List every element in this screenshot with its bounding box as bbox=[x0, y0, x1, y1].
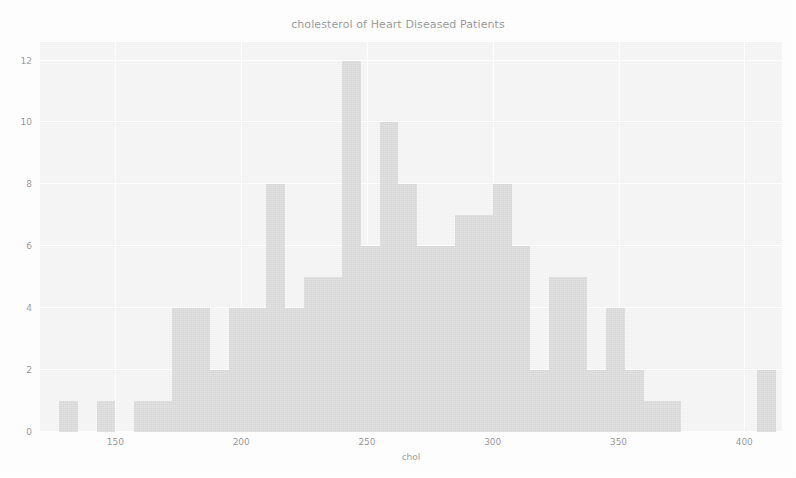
histogram-bar bbox=[530, 370, 549, 432]
gridline-x-400 bbox=[744, 42, 745, 432]
histogram-bar bbox=[323, 277, 342, 432]
histogram-bar bbox=[625, 370, 644, 432]
histogram-bar bbox=[134, 401, 153, 432]
histogram-bar bbox=[644, 401, 663, 432]
histogram-bar bbox=[380, 122, 399, 432]
y-tick-label: 4 bbox=[4, 304, 32, 313]
x-tick-label: 200 bbox=[221, 438, 261, 447]
x-axis-label: chol bbox=[40, 452, 782, 462]
histogram-bar bbox=[455, 215, 474, 432]
y-tick-label: 2 bbox=[4, 366, 32, 375]
histogram-bar bbox=[587, 370, 606, 432]
histogram-bar bbox=[172, 308, 191, 432]
histogram-bar bbox=[229, 308, 248, 432]
y-tick-label: 10 bbox=[4, 118, 32, 127]
histogram-bar bbox=[342, 61, 361, 432]
gridline-y-10 bbox=[40, 121, 782, 122]
histogram-bar bbox=[361, 246, 380, 432]
histogram-bar bbox=[474, 215, 493, 432]
x-tick-label: 350 bbox=[599, 438, 639, 447]
chart-title: cholesterol of Heart Diseased Patients bbox=[0, 18, 796, 31]
plot-area bbox=[40, 42, 782, 432]
histogram-bar bbox=[153, 401, 172, 432]
x-tick-label: 150 bbox=[95, 438, 135, 447]
gridline-x-150 bbox=[115, 42, 116, 432]
histogram-bar bbox=[210, 370, 229, 432]
histogram-bar bbox=[97, 401, 116, 432]
y-tick-label: 0 bbox=[4, 428, 32, 437]
histogram-bar bbox=[512, 246, 531, 432]
histogram-bar bbox=[248, 308, 267, 432]
y-tick-label: 8 bbox=[4, 180, 32, 189]
histogram-bar bbox=[191, 308, 210, 432]
histogram-bar bbox=[568, 277, 587, 432]
matplotlib-figure: cholesterol of Heart Diseased Patients 0… bbox=[0, 0, 796, 478]
histogram-bar bbox=[266, 184, 285, 432]
histogram-bar bbox=[493, 184, 512, 432]
x-tick-label: 250 bbox=[347, 438, 387, 447]
histogram-bar bbox=[549, 277, 568, 432]
y-tick-label: 12 bbox=[4, 57, 32, 66]
histogram-bar bbox=[304, 277, 323, 432]
histogram-bar bbox=[663, 401, 682, 432]
y-tick-label: 6 bbox=[4, 242, 32, 251]
histogram-bar bbox=[757, 370, 776, 432]
histogram-bar bbox=[417, 246, 436, 432]
histogram-bar bbox=[285, 308, 304, 432]
histogram-bar bbox=[606, 308, 625, 432]
histogram-bar bbox=[436, 246, 455, 432]
histogram-bar bbox=[398, 184, 417, 432]
x-tick-label: 300 bbox=[473, 438, 513, 447]
x-tick-label: 400 bbox=[724, 438, 764, 447]
gridline-y-12 bbox=[40, 60, 782, 61]
histogram-bar bbox=[59, 401, 78, 432]
